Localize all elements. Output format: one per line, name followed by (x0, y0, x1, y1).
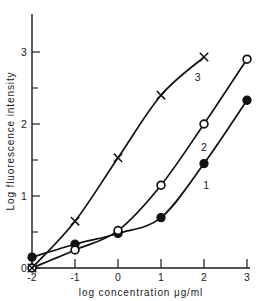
series-2 (28, 55, 251, 272)
data-point (200, 53, 208, 61)
x-tick-label-minus2: -2 (27, 271, 37, 283)
data-point (157, 181, 165, 189)
x-tick-label-2: 2 (201, 271, 207, 283)
y-tick-label-3: 3 (21, 46, 27, 58)
curve-label-3: 3 (195, 71, 201, 83)
x-ticks-group (32, 259, 247, 268)
x-tick-labels-group: -2 -1 0 1 2 3 (27, 271, 250, 283)
axes-group (32, 14, 250, 268)
x-axis-title: log concentration μg/ml (79, 287, 203, 298)
data-point (28, 253, 36, 261)
x-tick-label-0: 0 (115, 271, 121, 283)
data-point (243, 96, 251, 104)
y-tick-label-2: 2 (21, 118, 27, 130)
data-point (114, 227, 122, 235)
chart-svg: 0 1 2 3 -2 -1 0 1 2 3 log concentration … (0, 0, 268, 301)
y-tick-label-0: 0 (21, 262, 27, 274)
data-point (200, 120, 208, 128)
curve-label-2: 2 (201, 141, 207, 153)
x-tick-label-minus1: -1 (70, 271, 80, 283)
data-point (200, 160, 208, 168)
curve-label-1: 1 (203, 179, 209, 191)
data-point (114, 154, 122, 162)
curve-line-2 (32, 59, 247, 268)
data-point (157, 214, 165, 222)
x-tick-label-3: 3 (244, 271, 250, 283)
data-series-layer (28, 53, 251, 272)
data-point (71, 217, 79, 225)
data-point (157, 91, 165, 99)
x-tick-label-1: 1 (158, 271, 164, 283)
y-tick-labels-group: 0 1 2 3 (21, 46, 27, 274)
y-ticks-group (32, 52, 40, 268)
series-3 (28, 53, 208, 272)
y-axis-title: Log fluorescence intensity (5, 71, 16, 210)
data-point (71, 246, 79, 254)
fluorescence-dose-response-chart: 0 1 2 3 -2 -1 0 1 2 3 log concentration … (0, 0, 268, 301)
data-point (243, 55, 251, 63)
y-tick-label-1: 1 (21, 190, 27, 202)
